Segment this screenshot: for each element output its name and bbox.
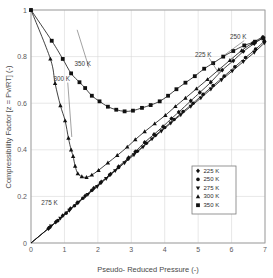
y-tick-0.8: 0.8	[17, 53, 27, 60]
marker-350-k-4	[78, 80, 82, 84]
marker-250-k-22	[244, 56, 248, 60]
marker-250-k-12	[145, 141, 149, 145]
marker-250-k-20	[222, 74, 226, 78]
marker-250-k-9	[117, 166, 121, 170]
marker-250-k-21	[233, 65, 237, 69]
marker-250-k-8	[108, 173, 112, 177]
y-tick-0: 0	[23, 240, 27, 247]
annotation-350-k: 350 K	[75, 60, 92, 67]
marker-250-k-13	[154, 134, 158, 138]
legend-label-350-k: 350 K	[204, 202, 220, 208]
marker-250-k-18	[201, 93, 205, 97]
marker-350-k-9	[114, 108, 118, 112]
y-tick-0.4: 0.4	[17, 146, 27, 153]
marker-350-k-13	[149, 103, 153, 107]
legend: 225 K250 K275 K300 K350 K	[192, 166, 236, 214]
marker-350-k-8	[106, 105, 110, 109]
x-tick-0: 0	[29, 246, 33, 253]
x-tick-3: 3	[129, 246, 133, 253]
marker-350-k-10	[123, 109, 127, 113]
marker-350-k-12	[140, 106, 144, 110]
marker-250-k-15	[172, 118, 176, 122]
marker-250-k-23	[254, 47, 258, 51]
marker-350-k-23	[242, 44, 246, 48]
x-tick-6: 6	[230, 246, 234, 253]
marker-350-k-5	[83, 86, 87, 90]
legend-label-275-k: 275 K	[204, 185, 220, 191]
y-tick-1: 1	[23, 7, 27, 14]
y-axis-title: Compressibility Factor [z = Pv/RT] (-)	[4, 65, 13, 189]
marker-350-k-21	[221, 55, 225, 59]
marker-350-k-24	[253, 40, 257, 44]
legend-marker-350-k	[196, 203, 200, 207]
marker-350-k-15	[166, 94, 170, 98]
x-tick-7: 7	[263, 246, 267, 253]
legend-label-300-k: 300 K	[204, 193, 220, 199]
marker-350-k-7	[98, 99, 102, 103]
x-tick-1: 1	[62, 246, 66, 253]
marker-250-k-7	[99, 181, 103, 185]
marker-350-k-16	[175, 87, 179, 91]
marker-250-k-4	[73, 204, 77, 208]
marker-350-k-11	[131, 109, 135, 113]
y-tick-0.6: 0.6	[17, 100, 27, 107]
x-tick-5: 5	[196, 246, 200, 253]
marker-350-k-14	[158, 99, 162, 103]
chart-figure: 01234567 00.20.40.60.81 300 K350 K275 K2…	[0, 0, 273, 278]
marker-250-k-11	[135, 149, 139, 153]
legend-label-225-k: 225 K	[204, 168, 220, 174]
legend-marker-250-k	[196, 178, 200, 182]
annotation-250-k: 250 K	[230, 33, 247, 40]
marker-250-k-16	[181, 110, 185, 114]
marker-350-k-17	[184, 81, 188, 85]
marker-350-k-18	[193, 74, 197, 78]
marker-250-k-5	[81, 196, 85, 200]
marker-250-k-6	[90, 189, 94, 193]
y-tick-0.2: 0.2	[17, 193, 27, 200]
compressibility-chart: 01234567 00.20.40.60.81 300 K350 K275 K2…	[0, 0, 273, 278]
marker-250-k-17	[191, 101, 195, 105]
marker-350-k-2	[61, 57, 65, 61]
marker-350-k-25	[261, 37, 265, 41]
annotation-300-k: 300 K	[54, 75, 71, 82]
marker-250-k-3	[64, 211, 68, 215]
marker-250-k-2	[56, 219, 60, 223]
annotation-225-k: 225 K	[195, 51, 212, 58]
marker-350-k-19	[202, 67, 206, 71]
annotation-275-k: 275 K	[41, 199, 58, 206]
marker-350-k-6	[90, 94, 94, 98]
x-axis-title: Pseudo- Reduced Pressure (-)	[97, 265, 199, 274]
marker-250-k-10	[126, 157, 130, 161]
x-tick-2: 2	[96, 246, 100, 253]
marker-350-k-1	[50, 39, 54, 43]
legend-label-250-k: 250 K	[204, 176, 220, 182]
marker-250-k-14	[163, 126, 167, 130]
marker-250-k-19	[211, 84, 215, 88]
marker-350-k-0	[29, 8, 33, 12]
x-tick-4: 4	[163, 246, 167, 253]
